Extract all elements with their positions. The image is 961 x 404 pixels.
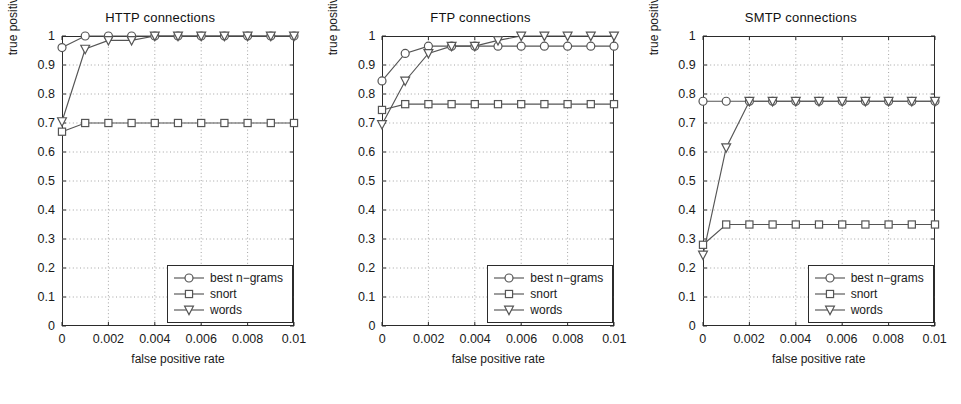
x-axis-tick-label: 0.008 [873,332,904,346]
legend-item[interactable]: words [492,302,606,318]
legend-item[interactable]: words [172,302,286,318]
y-axis-tick-label: 0.6 [678,145,695,159]
legend-item[interactable]: best n−grams [492,270,606,286]
x-axis-tick-label: 0 [699,332,706,346]
y-axis-tick-label: 0.9 [678,58,695,72]
chart-panel-smtp: SMTP connections true positive rate fals… [641,0,961,404]
x-axis-label: false positive rate [382,352,614,366]
series-markers [379,101,618,114]
plot-area: true positive rate false positive rate 0… [382,36,614,326]
y-axis-tick-label: 0.5 [358,174,375,188]
legend-item-label: best n−grams [206,271,283,285]
legend-item-label: words [206,303,242,317]
y-axis-tick-label: 0.4 [358,203,375,217]
y-axis-tick-label: 0.9 [38,58,55,72]
y-axis-tick-label: 0.7 [678,116,695,130]
square-marker [492,286,526,302]
y-axis-tick-label: 0.3 [358,232,375,246]
legend-item-label: snort [526,287,557,301]
y-axis-tick-label: 0 [368,319,375,333]
chart-panel-ftp: FTP connections true positive rate false… [320,0,640,404]
legend-item-label: best n−grams [847,271,924,285]
legend-item-label: snort [206,287,237,301]
y-axis-tick-label: 0.5 [38,174,55,188]
legend-item[interactable]: best n−grams [813,270,927,286]
chart-title: HTTP connections [0,10,320,25]
y-axis-tick-label: 1 [368,29,375,43]
legend-item-label: snort [847,287,878,301]
triangle-down-marker [492,302,526,318]
x-axis-tick-label: 0.002 [733,332,764,346]
x-axis-tick-label: 0.008 [552,332,583,346]
legend-item-label: words [526,303,562,317]
y-axis-tick-label: 1 [689,29,696,43]
y-axis-tick-label: 0.8 [358,87,375,101]
x-axis-label: false positive rate [703,352,935,366]
series-markers [378,42,618,85]
y-axis-tick-label: 0.5 [678,174,695,188]
x-axis-tick-label: 0.01 [602,332,626,346]
circle-marker [813,270,847,286]
y-axis-tick-label: 0.4 [38,203,55,217]
x-axis-tick-label: 0.004 [780,332,811,346]
series-markers [698,97,939,259]
y-axis-tick-label: 0.1 [358,290,375,304]
y-axis-tick-label: 0.6 [358,145,375,159]
x-axis-tick-label: 0.006 [826,332,857,346]
circle-marker [172,270,206,286]
y-axis-label: true positive rate [6,0,20,96]
y-axis-tick-label: 0.9 [358,58,375,72]
x-axis-tick-label: 0.002 [413,332,444,346]
y-axis-tick-label: 0.1 [678,290,695,304]
x-axis-tick-label: 0.01 [282,332,306,346]
y-axis-tick-label: 0.7 [358,116,375,130]
y-axis-tick-label: 0 [48,319,55,333]
y-axis-tick-label: 0.2 [358,261,375,275]
chart-legend[interactable]: best n−gramssnortwords [487,265,613,323]
plot-area: true positive rate false positive rate 0… [62,36,294,326]
y-axis-tick-label: 0.8 [38,87,55,101]
legend-item[interactable]: best n−grams [172,270,286,286]
x-axis-tick-label: 0.01 [922,332,946,346]
triangle-down-marker [172,302,206,318]
chart-panel-http: HTTP connections true positive rate fals… [0,0,320,404]
chart-legend[interactable]: best n−gramssnortwords [808,265,934,323]
roc-figure: HTTP connections true positive rate fals… [0,0,961,404]
legend-item-label: words [847,303,883,317]
chart-legend[interactable]: best n−gramssnortwords [167,265,293,323]
x-axis-label: false positive rate [62,352,294,366]
y-axis-tick-label: 0.2 [38,261,55,275]
x-axis-tick-label: 0.006 [506,332,537,346]
triangle-down-marker [813,302,847,318]
plot-area: true positive rate false positive rate 0… [703,36,935,326]
y-axis-tick-label: 0.1 [38,290,55,304]
chart-title: SMTP connections [641,10,961,25]
x-axis-tick-label: 0.008 [232,332,263,346]
y-axis-tick-label: 1 [48,29,55,43]
y-axis-label: true positive rate [326,0,340,96]
legend-item[interactable]: snort [492,286,606,302]
legend-item-label: best n−grams [526,271,603,285]
legend-item[interactable]: words [813,302,927,318]
x-axis-tick-label: 0 [59,332,66,346]
square-marker [172,286,206,302]
chart-title: FTP connections [320,10,640,25]
x-axis-tick-label: 0.006 [186,332,217,346]
y-axis-tick-label: 0.6 [38,145,55,159]
x-axis-tick-label: 0.004 [139,332,170,346]
legend-item[interactable]: snort [813,286,927,302]
square-marker [813,286,847,302]
y-axis-tick-label: 0.2 [678,261,695,275]
circle-marker [492,270,526,286]
y-axis-tick-label: 0.3 [38,232,55,246]
legend-item[interactable]: snort [172,286,286,302]
y-axis-label: true positive rate [647,0,661,96]
x-axis-tick-label: 0.002 [93,332,124,346]
series-markers [58,119,297,135]
y-axis-tick-label: 0.7 [38,116,55,130]
y-axis-tick-label: 0 [689,319,696,333]
x-axis-tick-label: 0.004 [459,332,490,346]
x-axis-tick-label: 0 [379,332,386,346]
y-axis-tick-label: 0.3 [678,232,695,246]
y-axis-tick-label: 0.4 [678,203,695,217]
